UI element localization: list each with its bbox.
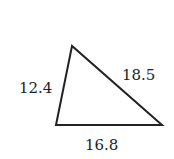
left-side-label: 12.4 [19,79,52,97]
triangle-diagram: 12.4 18.5 16.8 [0,0,174,159]
bottom-side-label: 16.8 [85,136,118,154]
triangle-shape [56,46,162,125]
right-side-label: 18.5 [122,66,155,84]
